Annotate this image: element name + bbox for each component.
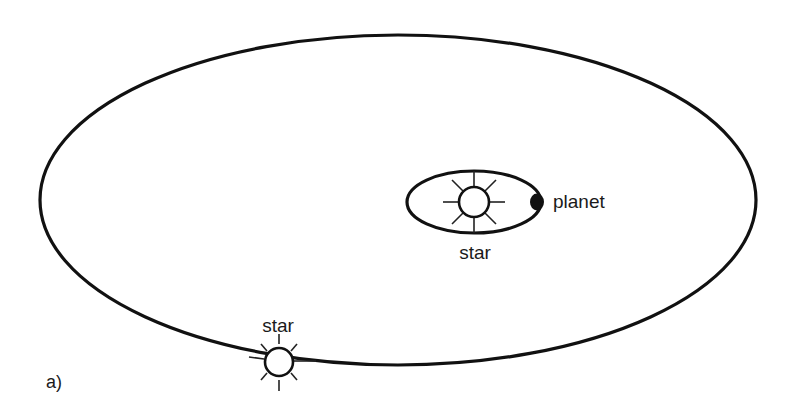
planet-label: planet — [553, 191, 605, 212]
panel-label: a) — [46, 372, 62, 392]
outer-orbit-ellipse — [40, 35, 756, 365]
binary-star-planet-orbit-diagram: planet star star a) — [0, 0, 796, 418]
orbiting-star-label: star — [262, 315, 294, 336]
orbiting-star-icon — [249, 334, 316, 391]
central-star-icon — [443, 171, 505, 233]
planet-dot-icon — [530, 194, 544, 211]
central-star-label: star — [459, 242, 491, 263]
